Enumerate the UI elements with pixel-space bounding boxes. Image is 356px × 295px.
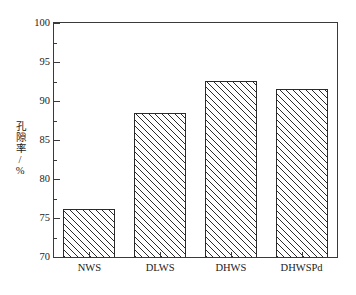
bar-dlws [134, 113, 186, 257]
x-axis-tick-label: DHWSPd [281, 263, 323, 274]
y-axis-tick-label: 70 [40, 252, 51, 263]
y-axis-tick-label: 80 [40, 174, 51, 185]
y-axis-tick-minor [54, 199, 57, 200]
y-axis-tick-label: 85 [40, 135, 51, 146]
y-axis-tick-major [54, 101, 60, 102]
y-axis-tick-major [54, 257, 60, 258]
y-axis-tick-major [54, 62, 60, 63]
y-axis-tick-minor [54, 160, 57, 161]
x-axis-tick [160, 252, 161, 257]
y-axis-tick-label: 95 [40, 57, 51, 68]
x-axis-tick-label: NWS [78, 263, 101, 274]
y-axis-tick-label: 75 [40, 213, 51, 224]
x-axis-tick [302, 252, 303, 257]
chart-figure: 孔隙率/% 707580859095100NWSDLWSDHWSDHWSPd [0, 0, 356, 295]
x-axis-tick-label: DLWS [146, 263, 175, 274]
y-axis-title: 孔隙率/% [14, 120, 25, 175]
y-axis-tick-minor [54, 43, 57, 44]
plot-area: 707580859095100NWSDLWSDHWSDHWSPd [53, 22, 338, 258]
y-axis-tick-major [54, 140, 60, 141]
y-axis-tick-label: 90 [40, 96, 51, 107]
x-axis-tick [231, 252, 232, 257]
y-axis-tick-label: 100 [34, 18, 50, 29]
x-axis-tick-label: DHWS [215, 263, 246, 274]
y-axis-tick-major [54, 179, 60, 180]
bar-dhws [205, 81, 257, 257]
x-axis-tick [89, 252, 90, 257]
y-axis-tick-minor [54, 82, 57, 83]
y-axis-tick-minor [54, 121, 57, 122]
y-axis-tick-major [54, 23, 60, 24]
bar-dhwspd [276, 89, 328, 257]
y-axis-tick-minor [54, 238, 57, 239]
y-axis-tick-major [54, 218, 60, 219]
bar-nws [63, 209, 115, 257]
